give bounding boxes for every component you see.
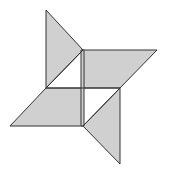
- left-parallelogram: [10, 88, 83, 126]
- bottom-triangle: [83, 88, 120, 164]
- right-parallelogram: [83, 50, 157, 88]
- top-triangle: [46, 10, 83, 88]
- pinwheel-diagram: [0, 0, 172, 169]
